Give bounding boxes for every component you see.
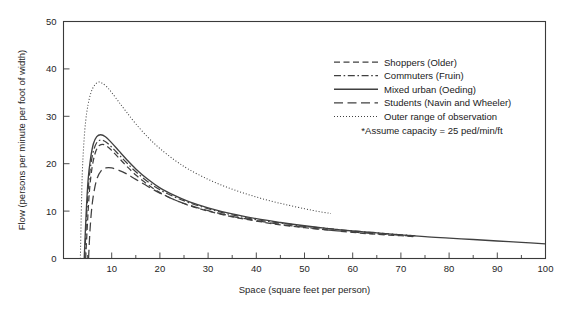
svg-text:90: 90 [492,263,503,274]
svg-text:50: 50 [299,263,310,274]
svg-text:0: 0 [51,253,56,264]
svg-text:20: 20 [155,263,166,274]
x-axis-title: Space (square feet per person) [239,284,371,295]
legend-label-0: Shoppers (Older) [384,57,457,68]
svg-text:30: 30 [46,111,57,122]
flow-space-chart: 102030405060708090100 01020304050 Shoppe… [0,0,570,317]
svg-text:70: 70 [396,263,407,274]
legend-label-2: Mixed urban (Oeding) [384,84,476,95]
svg-text:80: 80 [444,263,455,274]
y-axis-title: Flow (persons per minute per foot of wid… [16,50,27,231]
svg-text:40: 40 [251,263,262,274]
svg-text:20: 20 [46,158,57,169]
svg-text:100: 100 [538,263,554,274]
legend-label-1: Commuters (Fruin) [384,70,464,81]
svg-text:60: 60 [347,263,358,274]
chart-background [0,0,570,317]
svg-text:10: 10 [106,263,117,274]
legend-label-4: Outer range of observation [384,111,497,122]
svg-text:40: 40 [46,63,57,74]
svg-text:50: 50 [46,16,57,27]
legend-label-3: Students (Navin and Wheeler) [384,97,511,108]
legend-footnote: *Assume capacity = 25 ped/min/ft [361,125,503,136]
svg-text:10: 10 [46,206,57,217]
svg-text:30: 30 [203,263,214,274]
